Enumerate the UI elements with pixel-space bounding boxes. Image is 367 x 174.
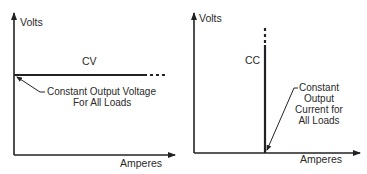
cc-x-axis-label: Amperes [300,153,342,165]
cv-annotation-line-2: For All Loads [73,97,131,108]
cv-cc-diagram: Volts Amperes CV Constant Output Voltage… [0,0,367,174]
cv-y-axis-label: Volts [20,16,43,28]
cc-annotation-leader [267,88,298,150]
cc-annotation-line-1: Constant [299,82,339,93]
cc-annotation-line-2: Output [304,93,334,104]
cv-mode-label: CV [82,55,97,67]
cc-annotation-line-4: All Loads [298,115,339,126]
cc-mode-label: CC [245,54,261,66]
cc-panel: Volts Amperes CC Constant Output Current… [194,12,360,165]
cv-x-axis-label: Amperes [120,157,162,169]
cc-y-axis-label: Volts [199,12,222,24]
cc-annotation-line-3: Current for [295,104,343,115]
cv-annotation-leader [17,77,45,92]
cv-panel: Volts Amperes CV Constant Output Voltage… [14,13,175,169]
cv-annotation-line-1: Constant Output Voltage [47,86,156,97]
